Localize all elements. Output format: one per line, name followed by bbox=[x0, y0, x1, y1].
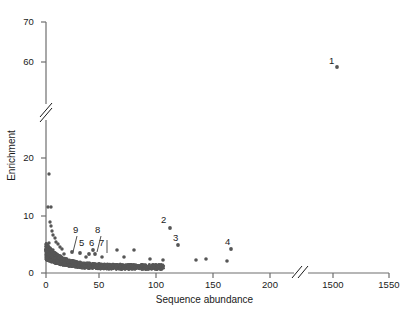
x-tick-label-200: 200 bbox=[255, 279, 285, 290]
y-tick-label-70: 70 bbox=[10, 16, 34, 27]
point-label-8: 8 bbox=[95, 224, 100, 235]
x-tick-label-1500: 1500 bbox=[315, 279, 351, 290]
point-label-2: 2 bbox=[161, 214, 166, 225]
y-axis-title: Enrichment bbox=[6, 111, 17, 201]
point-label-3: 3 bbox=[173, 232, 178, 243]
x-axis-title: Sequence abundance bbox=[0, 294, 409, 305]
x-tick-label-1550: 1550 bbox=[371, 279, 407, 290]
scatter-plot-figure: 70 60 20 10 0 0 50 100 150 200 1500 1550… bbox=[0, 0, 409, 316]
x-tick-label-0: 0 bbox=[36, 279, 56, 290]
point-label-9: 9 bbox=[73, 224, 78, 235]
y-tick-label-60: 60 bbox=[10, 56, 34, 67]
point-label-6: 6 bbox=[89, 237, 94, 248]
y-tick-label-0: 0 bbox=[10, 267, 34, 278]
x-tick-label-150: 150 bbox=[198, 279, 228, 290]
point-label-7: 7 bbox=[99, 237, 104, 248]
x-tick-label-100: 100 bbox=[141, 279, 171, 290]
point-label-4: 4 bbox=[225, 236, 230, 247]
point-label-5: 5 bbox=[79, 237, 84, 248]
x-tick-label-50: 50 bbox=[87, 279, 111, 290]
point-label-1: 1 bbox=[329, 55, 334, 66]
plot-canvas bbox=[0, 0, 409, 316]
y-tick-label-10: 10 bbox=[10, 210, 34, 221]
